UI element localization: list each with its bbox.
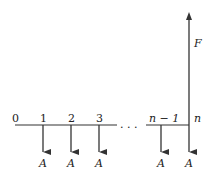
payment-label-n: A <box>184 157 193 170</box>
period-label-2: 2 <box>68 112 75 125</box>
payment-label-n-minus-1: A <box>156 157 165 170</box>
period-label-n-minus-1: n − 1 <box>149 112 179 125</box>
future-value-arrowhead <box>186 12 192 20</box>
ellipsis: . . . <box>120 118 137 131</box>
period-label-3: 3 <box>96 112 103 125</box>
payment-label-3: A <box>94 157 103 170</box>
cash-flow-diagram: 0 1 2 3 n − 1 n . . . A A A A A F <box>0 0 211 182</box>
period-label-0: 0 <box>12 112 19 125</box>
payment-label-1: A <box>38 157 47 170</box>
period-label-n: n <box>194 112 201 125</box>
future-value-label: F <box>193 37 202 50</box>
payment-label-2: A <box>66 157 75 170</box>
period-label-1: 1 <box>40 112 47 125</box>
